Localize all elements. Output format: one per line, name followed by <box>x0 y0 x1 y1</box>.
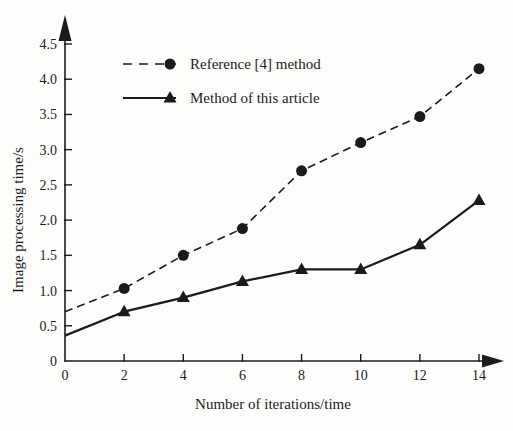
y-axis-label: Image processing time/s <box>10 147 26 293</box>
svg-text:8: 8 <box>298 368 305 383</box>
svg-text:4: 4 <box>180 368 187 383</box>
svg-text:6: 6 <box>239 368 246 383</box>
svg-text:2.0: 2.0 <box>40 213 58 228</box>
svg-text:1.0: 1.0 <box>40 284 58 299</box>
legend-label-reference-method: Reference [4] method <box>190 56 321 72</box>
x-axis-label: Number of iterations/time <box>195 396 351 412</box>
legend-item-reference-method: Reference [4] method <box>123 56 321 72</box>
legend-solid-line-triangle-icon <box>123 91 177 103</box>
legend-label-this-article: Method of this article <box>190 90 320 106</box>
svg-text:12: 12 <box>413 368 427 383</box>
chart-canvas: 0246810121400.51.01.52.02.53.03.54.04.5 … <box>0 0 513 431</box>
svg-text:4.0: 4.0 <box>40 72 58 87</box>
svg-text:2: 2 <box>121 368 128 383</box>
svg-text:0.5: 0.5 <box>40 319 58 334</box>
line-chart-figure: 0246810121400.51.01.52.02.53.03.54.04.5 … <box>0 0 513 431</box>
svg-text:1.5: 1.5 <box>40 248 58 263</box>
legend-item-this-article: Method of this article <box>123 90 320 106</box>
legend: Reference [4] method Method of this arti… <box>123 56 321 106</box>
svg-text:2.5: 2.5 <box>40 178 58 193</box>
legend-dashed-line-circle-icon <box>123 59 176 70</box>
svg-text:0: 0 <box>50 354 57 369</box>
svg-text:3.0: 3.0 <box>40 143 58 158</box>
svg-text:14: 14 <box>472 368 486 383</box>
svg-text:3.5: 3.5 <box>40 107 58 122</box>
svg-text:10: 10 <box>354 368 368 383</box>
svg-text:0: 0 <box>62 368 69 383</box>
svg-text:4.5: 4.5 <box>40 37 58 52</box>
